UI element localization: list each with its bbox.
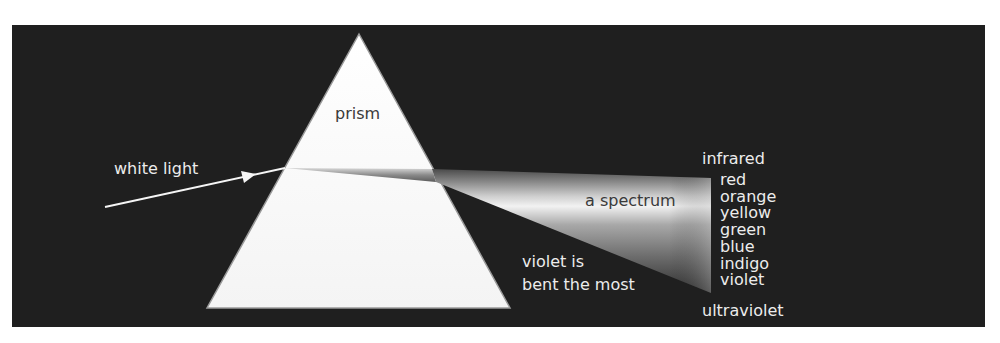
white-light-label: white light	[114, 160, 198, 178]
infrared-label: infrared	[702, 150, 765, 168]
color-violet: violet	[720, 272, 776, 289]
spectrum-color-list: red orange yellow green blue indigo viol…	[720, 172, 776, 289]
violet-note-line2: bent the most	[522, 276, 635, 294]
violet-note-line1: violet is	[522, 253, 584, 271]
spectrum-label: a spectrum	[585, 192, 676, 210]
ultraviolet-label: ultraviolet	[702, 302, 784, 320]
color-blue: blue	[720, 239, 776, 256]
arrow-head-icon	[241, 171, 256, 183]
prism-label: prism	[335, 105, 380, 123]
